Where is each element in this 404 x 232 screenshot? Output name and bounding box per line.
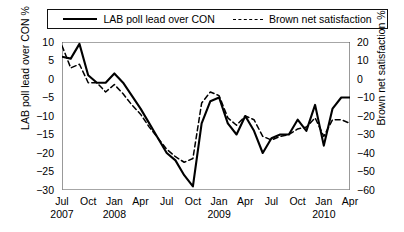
x-tick-label-year: 2010 bbox=[304, 209, 344, 220]
legend-item-brown: Brown net satisfaction bbox=[233, 14, 372, 25]
y-tick-label-left: −20 bbox=[22, 148, 54, 159]
y-tick-label-left: −30 bbox=[22, 185, 54, 196]
y-tick-label-right: 10 bbox=[357, 55, 387, 66]
y-tick-label-left: 10 bbox=[22, 37, 54, 48]
chart-canvas bbox=[62, 42, 350, 190]
series-line-lab bbox=[62, 44, 350, 186]
x-tick-label-year: 2007 bbox=[42, 209, 82, 220]
y-tick-label-left: −5 bbox=[22, 92, 54, 103]
y-tick-label-right: 20 bbox=[357, 37, 387, 48]
y-tick-label-left: −15 bbox=[22, 129, 54, 140]
y-tick-label-right: 0 bbox=[357, 74, 387, 85]
chart-legend: LAB poll lead over CON Brown net satisfa… bbox=[47, 9, 388, 29]
y-tick-label-right: −40 bbox=[357, 148, 387, 159]
legend-label-brown: Brown net satisfaction bbox=[269, 14, 372, 25]
x-tick-label-month: Apr bbox=[330, 196, 370, 207]
y-tick-label-left: 5 bbox=[22, 55, 54, 66]
y-tick-label-left: −10 bbox=[22, 111, 54, 122]
x-tick-label-year: 2008 bbox=[94, 209, 134, 220]
y-tick-label-right: −10 bbox=[357, 92, 387, 103]
y-tick-label-left: 0 bbox=[22, 74, 54, 85]
solid-line-swatch-icon bbox=[63, 18, 97, 20]
y-tick-label-right: −30 bbox=[357, 129, 387, 140]
x-tick-label-year: 2009 bbox=[199, 209, 239, 220]
y-tick-label-right: −20 bbox=[357, 111, 387, 122]
y-tick-label-right: −60 bbox=[357, 185, 387, 196]
y-tick-label-right: −50 bbox=[357, 166, 387, 177]
dashed-line-swatch-icon bbox=[233, 19, 263, 20]
series-line-brown bbox=[62, 46, 350, 163]
plot-area bbox=[62, 42, 350, 190]
y-tick-label-left: −25 bbox=[22, 166, 54, 177]
chart-figure: LAB poll lead over CON Brown net satisfa… bbox=[0, 0, 404, 232]
legend-item-lab: LAB poll lead over CON bbox=[63, 14, 214, 25]
legend-label-lab: LAB poll lead over CON bbox=[103, 14, 214, 25]
